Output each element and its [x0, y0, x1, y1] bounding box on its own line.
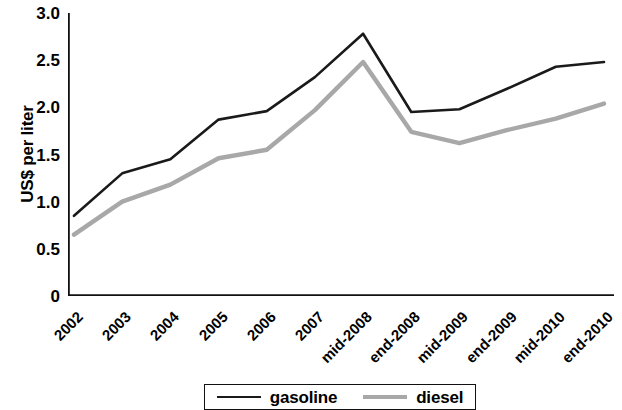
x-axis-tick-label: 2007	[247, 308, 327, 388]
y-axis-tick-labels: 00.51.01.52.02.53.0	[8, 0, 60, 410]
x-axis-tick-label: 2006	[199, 308, 279, 388]
x-axis-tick-label: end-2008	[343, 308, 423, 388]
x-axis-tick-label: 2003	[54, 308, 134, 388]
legend-swatch-gasoline-icon	[217, 396, 261, 398]
y-axis-tick-label: 0	[14, 288, 60, 305]
legend-label: diesel	[416, 389, 463, 406]
legend-swatch-diesel-icon	[363, 395, 407, 399]
x-axis-tick-label: end-2009	[440, 308, 520, 388]
x-axis-tick-label: mid-2010	[488, 308, 568, 388]
x-axis-tick-label: 2004	[102, 308, 182, 388]
x-axis-tick-label: end-2010	[536, 308, 616, 388]
series-line-diesel	[74, 62, 604, 235]
x-axis-tick-label: mid-2008	[295, 308, 375, 388]
x-axis-tick-label: mid-2009	[392, 308, 472, 388]
plot-area	[68, 13, 614, 296]
legend-entry-gasoline: gasoline	[217, 389, 337, 406]
axis-lines	[68, 13, 614, 296]
legend-label: gasoline	[270, 389, 337, 406]
y-axis-tick-label: 2.0	[14, 99, 60, 116]
y-axis-tick-label: 3.0	[14, 5, 60, 22]
legend-entry-diesel: diesel	[363, 389, 463, 406]
data-series-lines	[74, 34, 604, 235]
y-axis-tick-label: 2.5	[14, 52, 60, 69]
chart-legend: gasolinediesel	[204, 384, 476, 410]
y-axis-tick-label: 0.5	[14, 240, 60, 257]
plot-svg	[68, 13, 614, 296]
gasoline-diesel-price-line-chart: US$ per liter 00.51.01.52.02.53.0 200220…	[0, 0, 622, 410]
y-axis-tick-label: 1.0	[14, 193, 60, 210]
y-axis-tick-label: 1.5	[14, 146, 60, 163]
x-axis-tick-label: 2005	[151, 308, 231, 388]
